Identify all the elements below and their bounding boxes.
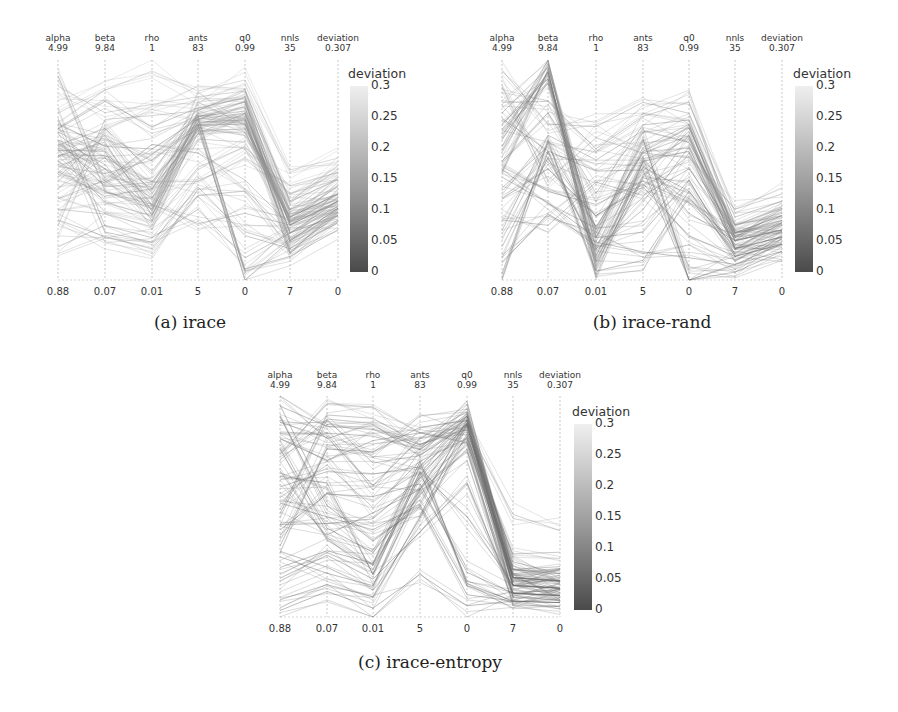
axis-min-value-rho: 0.01: [362, 623, 384, 634]
axis-header-deviation: deviation0.307: [539, 370, 581, 390]
axis-header-ants: ants83: [410, 370, 429, 390]
colorbar-tick-label: 0.2: [595, 478, 614, 492]
axis-min-value-nnls: 7: [510, 623, 516, 634]
axis-max-value: 4.99: [268, 380, 293, 390]
axis-name: ants: [410, 370, 429, 380]
colorbar-gradient: [574, 424, 592, 610]
axis-max-value: 0.99: [457, 380, 477, 390]
axis-max-value: 83: [410, 380, 429, 390]
axis-name: beta: [317, 370, 337, 380]
colorbar-tick-label: 0.1: [595, 540, 614, 554]
colorbar-tick-label: 0.05: [595, 571, 622, 585]
axis-min-value-ants: 5: [417, 623, 423, 634]
axis-max-value: 1: [366, 380, 381, 390]
colorbar-tick-label: 0.3: [595, 416, 614, 430]
colorbar-tick-label: 0: [595, 602, 603, 616]
axis-min-value-q0: 0: [464, 623, 470, 634]
axis-header-alpha: alpha4.99: [268, 370, 293, 390]
colorbar-tick-label: 0.25: [595, 447, 622, 461]
parallel-coordinates-plot-c: [0, 0, 898, 712]
axis-max-value: 0.307: [539, 380, 581, 390]
axis-max-value: 35: [504, 380, 523, 390]
axis-min-value-deviation: 0: [557, 623, 563, 634]
axis-min-value-beta: 0.07: [316, 623, 338, 634]
axis-name: q0: [457, 370, 477, 380]
figure-caption-c: (c) irace-entropy: [358, 652, 502, 672]
axis-min-value-alpha: 0.88: [269, 623, 291, 634]
axis-name: alpha: [268, 370, 293, 380]
axis-max-value: 9.84: [317, 380, 337, 390]
colorbar-tick-label: 0.15: [595, 509, 622, 523]
axis-name: nnls: [504, 370, 523, 380]
axis-header-q0: q00.99: [457, 370, 477, 390]
axis-name: deviation: [539, 370, 581, 380]
axis-name: rho: [366, 370, 381, 380]
axis-header-rho: rho1: [366, 370, 381, 390]
axis-header-beta: beta9.84: [317, 370, 337, 390]
axis-header-nnls: nnls35: [504, 370, 523, 390]
